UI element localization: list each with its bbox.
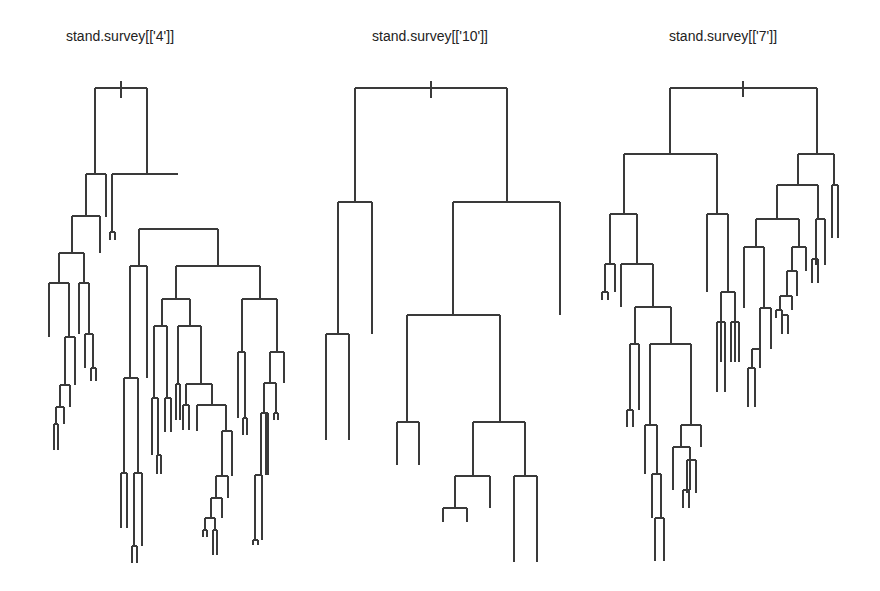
dendrogram-4 — [49, 81, 284, 563]
dendrogram-7 — [602, 81, 838, 561]
dendrogram-10 — [326, 81, 560, 562]
dendrogram-plots — [0, 0, 880, 591]
